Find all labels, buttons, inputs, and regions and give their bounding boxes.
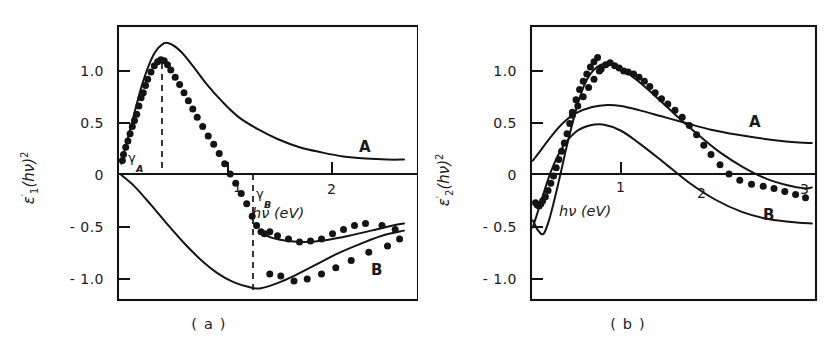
y-sup-a: 2	[19, 152, 30, 158]
panel-a-ytick-1: 1.0	[80, 63, 104, 79]
data-point	[194, 114, 201, 121]
panel-a: ε′1(hν)2 1.0 0.5 0 - 0.5 - 1.0 1 2	[0, 0, 418, 351]
data-point	[243, 200, 250, 207]
data-point	[277, 272, 284, 279]
data-point	[318, 270, 325, 277]
panel-a-frame	[118, 26, 418, 300]
data-point	[210, 141, 217, 148]
data-point	[304, 276, 311, 283]
data-point	[708, 151, 715, 158]
data-point	[351, 222, 358, 229]
panel-a-xtick-2: 2	[327, 181, 336, 197]
data-point	[574, 103, 581, 110]
y-arg-b: (hν)	[435, 160, 453, 190]
data-point	[181, 89, 188, 96]
data-point	[205, 132, 212, 139]
panel-b-xtick-1: 1	[616, 179, 625, 195]
data-point	[553, 164, 560, 171]
data-point	[133, 111, 140, 118]
data-point	[318, 235, 325, 242]
data-point	[693, 131, 700, 138]
data-point	[573, 96, 580, 103]
data-point	[561, 140, 568, 147]
panel-b-ytick-5: - 1.0	[483, 271, 517, 287]
panel-b-curve-label-A: A	[749, 113, 761, 131]
panel-b-ytick-2: 0.5	[493, 115, 517, 131]
data-point	[558, 148, 565, 155]
data-point	[365, 249, 372, 256]
y-eps-b: ε	[435, 198, 453, 206]
data-point	[641, 78, 648, 85]
data-point	[591, 76, 598, 83]
data-point	[266, 228, 273, 235]
data-point	[253, 222, 260, 229]
data-point	[564, 130, 571, 137]
data-point	[566, 120, 573, 127]
data-point	[307, 237, 314, 244]
data-point	[216, 150, 223, 157]
data-point	[686, 122, 693, 129]
data-point	[545, 187, 552, 194]
data-point	[329, 230, 336, 237]
data-point	[122, 144, 129, 151]
data-point	[379, 222, 386, 229]
data-point	[129, 123, 136, 130]
data-point	[167, 66, 174, 73]
data-point	[748, 181, 755, 188]
data-point	[542, 193, 549, 200]
svg-text:ε′1(hν)2: ε′1(hν)2	[19, 152, 40, 205]
data-point	[348, 257, 355, 264]
data-point	[285, 235, 292, 242]
panel-b-ytick-1: 1.0	[493, 63, 517, 79]
data-point	[760, 183, 767, 190]
gamma-b-symbol: γ	[256, 186, 264, 201]
gamma-a-symbol: γ	[128, 150, 136, 165]
data-point	[238, 190, 245, 197]
data-point	[576, 86, 583, 93]
panel-a-plot: ε′1(hν)2 1.0 0.5 0 - 0.5 - 1.0 1 2	[0, 0, 418, 351]
panel-b-y-axis-title: ε′2(hν)2	[434, 154, 455, 207]
panel-b-plot: ε′2(hν)2 1.0 0.5 0 - 0.5 - 1.0 1 2 3 hν …	[419, 0, 837, 351]
data-point	[142, 82, 149, 89]
panel-a-caption: ( a )	[191, 316, 226, 332]
data-point	[189, 106, 196, 113]
data-point	[135, 103, 142, 110]
data-point	[144, 76, 151, 83]
panel-b: ε′2(hν)2 1.0 0.5 0 - 0.5 - 1.0 1 2 3 hν …	[419, 0, 837, 351]
panel-b-ytick-4: - 0.5	[483, 219, 517, 235]
data-point	[266, 270, 273, 277]
data-point	[362, 220, 369, 227]
data-point	[185, 97, 192, 104]
data-point	[140, 89, 147, 96]
panel-a-ytick-3: 0	[95, 167, 104, 183]
gamma-a-subscript: A	[135, 163, 143, 174]
panel-b-ytick-3: 0	[508, 167, 517, 183]
data-point	[131, 117, 138, 124]
y-eps-a: ε	[20, 196, 38, 204]
data-point	[392, 226, 399, 233]
data-point	[580, 78, 587, 85]
data-point	[274, 232, 281, 239]
data-point	[340, 226, 347, 233]
data-point	[802, 194, 809, 201]
data-point	[119, 157, 126, 164]
y-sup-b: 2	[434, 154, 445, 160]
data-point	[124, 138, 131, 145]
svg-text:ε′2(hν)2: ε′2(hν)2	[434, 154, 455, 207]
data-point	[664, 100, 671, 107]
data-point	[679, 114, 686, 121]
data-point	[249, 213, 256, 220]
data-point	[332, 264, 339, 271]
data-point	[580, 93, 587, 100]
data-point	[583, 71, 590, 78]
data-point	[596, 68, 603, 75]
panel-a-y-axis-title: ε′1(hν)2	[19, 152, 40, 205]
panel-a-x-axis-title: hν (eV)	[252, 205, 304, 221]
data-point	[585, 84, 592, 91]
panel-b-datapoints	[532, 54, 809, 209]
gamma-b-subscript: B	[264, 199, 271, 210]
panel-b-x-axis-title: hν (eV)	[559, 203, 611, 219]
panel-a-curves	[121, 43, 404, 289]
panel-b-curve-label-B: B	[763, 206, 774, 224]
data-point	[120, 151, 127, 158]
